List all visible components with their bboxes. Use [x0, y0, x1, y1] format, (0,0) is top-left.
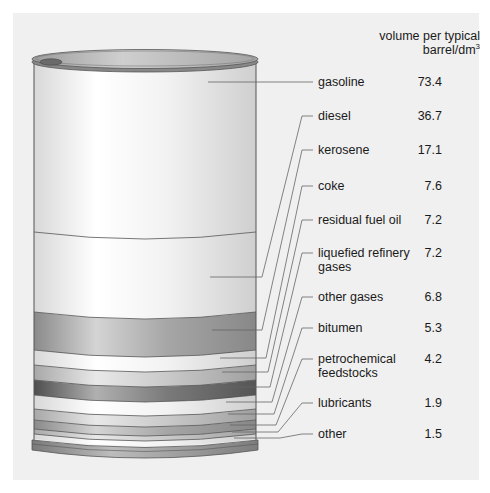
value-other-gases: 6.8 [400, 290, 442, 304]
value-liquefied-refinery-gases: 7.2 [400, 246, 442, 260]
value-residual-fuel-oil: 7.2 [400, 213, 442, 227]
value-kerosene: 17.1 [400, 143, 442, 157]
header-line2: barrel/dm3 [340, 43, 480, 57]
barrel-lid [32, 50, 258, 73]
value-bitumen: 5.3 [400, 321, 442, 335]
column-header: volume per typical barrel/dm3 [340, 29, 480, 57]
value-other: 1.5 [400, 427, 442, 441]
value-coke: 7.6 [400, 179, 442, 193]
header-unit-text: barrel/dm [423, 43, 476, 57]
unit-superscript: 3 [476, 42, 480, 51]
bung-cap-icon [40, 59, 62, 65]
value-gasoline: 73.4 [400, 75, 442, 89]
value-diesel: 36.7 [400, 109, 442, 123]
value-petrochemical-feedstocks: 4.2 [400, 352, 442, 366]
band-diesel [34, 232, 256, 319]
value-lubricants: 1.9 [400, 396, 442, 410]
barrel-body [34, 62, 256, 446]
band-gasoline [34, 62, 256, 239]
header-line1: volume per typical [340, 29, 480, 43]
